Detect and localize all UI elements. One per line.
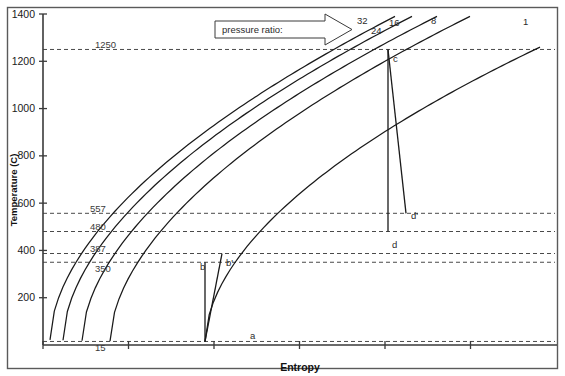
chart-figure: 200400600800100012001400 125055748038735… bbox=[0, 0, 565, 376]
y-tick-label: 400 bbox=[17, 244, 35, 256]
reference-line-label: 1250 bbox=[95, 39, 116, 50]
reference-line-label: 480 bbox=[90, 221, 106, 232]
y-tick-label: 800 bbox=[17, 149, 35, 161]
y-axis-title: Temperature (C) bbox=[8, 154, 19, 227]
figure-frame bbox=[8, 8, 558, 369]
y-tick-label: 600 bbox=[17, 197, 35, 209]
state-point-bprime: b' bbox=[226, 257, 233, 268]
state-point-dprime: d' bbox=[411, 210, 418, 221]
state-point-b: b bbox=[200, 261, 205, 272]
reference-line-label: 557 bbox=[90, 203, 106, 214]
y-tick-label: 1400 bbox=[12, 8, 36, 20]
x-axis-title: Entropy bbox=[280, 361, 320, 373]
series-label-16: 16 bbox=[389, 17, 400, 28]
y-tick-label: 1000 bbox=[12, 102, 36, 114]
state-point-a: a bbox=[250, 330, 256, 341]
series-label-24: 24 bbox=[371, 25, 382, 36]
reference-line-label: 350 bbox=[95, 263, 111, 274]
reference-line-label: 15 bbox=[95, 342, 106, 353]
series-label-8: 8 bbox=[431, 15, 436, 26]
state-point-d: d bbox=[392, 239, 397, 250]
series-label-1: 1 bbox=[523, 16, 528, 27]
reference-line-label: 387 bbox=[90, 243, 106, 254]
state-point-c: c bbox=[393, 53, 398, 64]
y-tick-label: 1200 bbox=[12, 55, 36, 67]
y-tick-label: 200 bbox=[17, 291, 35, 303]
series-label-32: 32 bbox=[357, 15, 368, 26]
temperature-entropy-diagram: 200400600800100012001400 125055748038735… bbox=[0, 0, 565, 376]
pressure-ratio-label: pressure ratio: bbox=[222, 24, 283, 35]
